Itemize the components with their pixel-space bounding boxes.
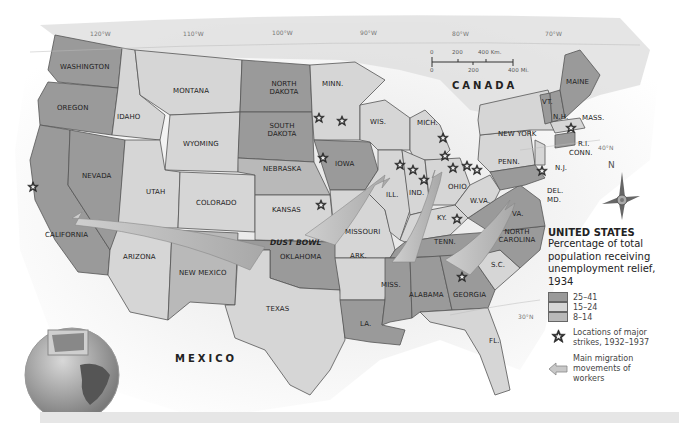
legend-strikes-label: Locations of major strikes, 1932–1937 <box>573 328 673 348</box>
state-label-va: VA. <box>512 210 524 218</box>
scale-mi-400: 400 Mi. <box>508 67 529 73</box>
compass-north-label: N <box>608 160 615 170</box>
legend-swatch-mid <box>548 302 568 312</box>
state-label-oregon: OREGON <box>57 104 89 112</box>
strike-star-icon <box>548 328 568 346</box>
state-label-fl: FL. <box>489 337 499 345</box>
scale-km-200: 200 <box>452 49 463 55</box>
gridline-label-110w: 110°W <box>183 30 204 37</box>
legend-range-high: 25–41 <box>573 293 597 302</box>
state-label-la: LA. <box>360 320 371 328</box>
state-label-mass: MASS. <box>582 114 604 122</box>
state-arkansas[interactable] <box>335 258 390 300</box>
state-label-del: DEL. <box>547 187 563 195</box>
state-label-new-york: NEW YORK <box>498 130 536 138</box>
map-legend: UNITED STATES Percentage of total popula… <box>548 227 678 384</box>
state-label-wis: WIS. <box>370 118 386 126</box>
state-label-washington: WASHINGTON <box>60 63 110 71</box>
state-label-kansas: KANSAS <box>272 206 301 214</box>
scale-mi-200: 200 <box>468 67 479 73</box>
state-label-oklahoma: OKLAHOMA <box>280 253 321 261</box>
legend-range-mid: 15–24 <box>573 303 597 312</box>
country-label-mexico: MEXICO <box>175 353 237 364</box>
gridline-label-30n: 30°N <box>518 313 534 320</box>
legend-item-migration: Main migration movements of workers <box>548 354 678 384</box>
state-label-ill: ILL. <box>386 191 399 199</box>
legend-swatch-low <box>548 312 568 322</box>
state-label-utah: UTAH <box>146 188 165 196</box>
scale-mi-0: 0 <box>430 67 434 73</box>
state-label-ky: KY. <box>437 214 447 222</box>
gridline-label-90w: 90°W <box>360 29 377 36</box>
gridline-label-100w: 100°W <box>272 29 293 36</box>
state-label-sc: S.C. <box>491 261 505 269</box>
state-label-conn: CONN. <box>569 149 593 157</box>
state-label-tenn: TENN. <box>434 238 456 246</box>
scale-km-400: 400 Km. <box>478 49 502 55</box>
legend-title: UNITED STATES <box>548 227 678 238</box>
gridline-label-70w: 70°W <box>545 30 562 37</box>
state-label-vt: VT. <box>542 98 553 106</box>
state-label-montana: MONTANA <box>173 87 209 95</box>
state-label-iowa: IOWA <box>335 160 354 168</box>
state-label-ohio: OHIO <box>448 183 467 191</box>
state-label-nevada: NEVADA <box>82 172 111 180</box>
state-label-georgia: GEORGIA <box>453 291 486 299</box>
state-mississippi[interactable] <box>382 258 412 325</box>
state-label-ark: ARK. <box>350 252 367 260</box>
state-label-south-dakota: SOUTH DAKOTA <box>262 122 302 138</box>
state-label-alabama: ALABAMA <box>409 291 444 299</box>
country-label-canada: CANADA <box>452 80 517 91</box>
gridline-label-40n: 40°N <box>598 144 614 151</box>
legend-row-high: 25–41 <box>548 292 678 302</box>
state-label-nj: N.J. <box>555 164 567 172</box>
legend-range-low: 8–14 <box>573 313 592 322</box>
state-label-maine: MAINE <box>566 78 589 86</box>
state-label-nebraska: NEBRASKA <box>263 165 301 173</box>
state-label-mich: MICH. <box>417 119 438 127</box>
bottom-bar <box>40 412 679 423</box>
legend-subtitle: Percentage of total population receiving… <box>548 238 678 288</box>
state-label-colorado: COLORADO <box>196 199 237 207</box>
state-label-arizona: ARIZONA <box>123 253 156 261</box>
legend-migration-label: Main migration movements of workers <box>573 354 653 384</box>
state-label-ri: R.I. <box>578 140 590 148</box>
state-label-north-carolina: NORTH CAROLINA <box>492 228 542 244</box>
state-label-texas: TEXAS <box>266 305 289 313</box>
region-label-dust-bowl: DUST BOWL <box>270 238 322 247</box>
state-label-wyoming: WYOMING <box>183 140 219 148</box>
state-label-wva: W.VA. <box>470 197 490 205</box>
state-label-ind: IND. <box>409 189 424 197</box>
state-label-minn: MINN. <box>322 80 343 88</box>
gridline-label-80w: 80°W <box>452 30 469 37</box>
scale-km-0: 0 <box>430 49 434 55</box>
legend-row-mid: 15–24 <box>548 302 678 312</box>
state-label-idaho: IDAHO <box>117 113 140 121</box>
state-label-md: MD. <box>547 196 561 204</box>
gridline-label-120w: 120°W <box>90 30 111 37</box>
state-label-penn: PENN. <box>498 158 520 166</box>
legend-item-strikes: Locations of major strikes, 1932–1937 <box>548 328 678 348</box>
globe-inset <box>25 328 119 422</box>
state-connecticut-ri[interactable] <box>555 132 575 148</box>
migration-arrow-icon <box>548 354 568 384</box>
state-label-miss: MISS. <box>381 281 401 289</box>
legend-row-low: 8–14 <box>548 312 678 322</box>
state-label-north-dakota: NORTH DAKOTA <box>264 80 304 96</box>
legend-swatch-high <box>548 292 568 302</box>
state-label-california: CALIFORNIA <box>45 231 88 239</box>
state-label-missouri: MISSOURI <box>345 228 380 236</box>
state-label-nh: N.H. <box>553 113 568 121</box>
state-label-new-mexico: NEW MEXICO <box>179 269 227 277</box>
